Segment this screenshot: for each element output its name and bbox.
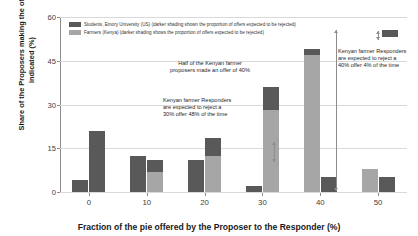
x-axis-tick-label: 20 — [200, 198, 209, 207]
legend-swatch-light-icon — [69, 30, 81, 35]
bar-students-20 — [188, 160, 204, 192]
x-axis-tick-mark — [378, 193, 379, 196]
x-axis-title: Fraction of the pie offered by the Propo… — [0, 222, 418, 232]
x-axis-tick-mark — [89, 193, 90, 196]
bar-farmers-40 — [304, 49, 320, 192]
y-axis-title: Share of the Proposers making the offer … — [17, 0, 37, 145]
bar-segment-accepted — [263, 110, 279, 192]
bar-group-0 — [72, 131, 105, 192]
bar-segment-accepted — [362, 169, 378, 192]
bar-segment-rejected — [205, 138, 221, 156]
y-axis-tick-mark — [57, 192, 60, 193]
bar-students-50 — [379, 177, 395, 192]
gridline — [60, 17, 407, 18]
x-axis-tick-mark — [262, 193, 263, 196]
legend-item-farmers: Farmers (Kenya) (darker shading shows th… — [69, 29, 296, 37]
bar-segment-rejected — [188, 160, 204, 192]
annotation-swatch-dark-icon — [382, 30, 398, 37]
annotation-half-offered-40: Half of the Kenyan farmer proposers made… — [150, 60, 270, 74]
bar-segment-accepted — [147, 172, 163, 192]
bar-segment-accepted — [205, 156, 221, 192]
y-axis-tick-label: 60 — [48, 13, 56, 22]
bar-students-10 — [130, 156, 146, 192]
bar-segment-rejected — [246, 186, 262, 192]
y-axis-tick-mark — [57, 17, 60, 18]
bar-segment-rejected — [147, 160, 163, 172]
gridline — [60, 192, 407, 193]
bar-group-10 — [130, 156, 163, 192]
bar-segment-rejected — [379, 177, 395, 192]
annotation-reject-40-offer: Kenyan farmer Responders are expected to… — [338, 48, 418, 70]
bar-segment-rejected — [130, 156, 146, 192]
annotation-arrow-40-span-head-down-icon — [334, 188, 338, 191]
y-axis-tick-label: 15 — [48, 144, 56, 153]
bar-segment-rejected — [89, 131, 105, 192]
bar-group-20 — [188, 138, 221, 192]
annotation-arrow-40-span — [336, 30, 337, 191]
y-axis-tick-label: 0 — [52, 188, 56, 197]
x-axis-tick-mark — [147, 193, 148, 196]
legend-label-students: Students, Emory University (US) (darker … — [84, 21, 296, 29]
bar-segment-accepted — [304, 55, 320, 192]
bar-farmers-20 — [205, 138, 221, 192]
annotation-arrow-40-head-up-icon — [376, 31, 380, 34]
y-axis-tick-label: 30 — [48, 100, 56, 109]
legend-swatch-dark-icon — [69, 22, 81, 27]
x-axis-tick-label: 0 — [87, 198, 91, 207]
bar-farmers-10 — [147, 160, 163, 192]
gridline — [60, 148, 407, 149]
annotation-arrow-40-head-down-icon — [376, 37, 380, 40]
bar-farmers-0 — [89, 131, 105, 192]
y-axis-tick-label: 45 — [48, 56, 56, 65]
legend-item-students: Students, Emory University (US) (darker … — [69, 21, 296, 29]
bar-chart: Share of the Proposers making the offer … — [0, 0, 418, 236]
annotation-arrow-40-span-head-up-icon — [334, 30, 338, 33]
legend-label-farmers: Farmers (Kenya) (darker shading shows th… — [84, 29, 264, 37]
x-axis-tick-label: 40 — [316, 198, 325, 207]
bar-students-0 — [72, 180, 88, 192]
annotation-reject-30-offer: Kenyan farmer Responders are expected to… — [163, 97, 267, 119]
x-axis-tick-mark — [205, 193, 206, 196]
x-axis-tick-mark — [320, 193, 321, 196]
bar-group-50 — [362, 169, 395, 192]
annotation-arrow-30-head-down-icon — [272, 159, 276, 162]
annotation-arrow-30-head-up-icon — [272, 142, 276, 145]
y-axis-tick-mark — [57, 61, 60, 62]
bar-group-40 — [304, 49, 337, 192]
bar-segment-rejected — [72, 180, 88, 192]
x-axis-tick-label: 10 — [142, 198, 151, 207]
chart-legend: Students, Emory University (US) (darker … — [69, 21, 296, 36]
bar-farmers-50 — [362, 169, 378, 192]
bar-students-30 — [246, 186, 262, 192]
y-axis-tick-mark — [57, 105, 60, 106]
x-axis-tick-label: 30 — [258, 198, 267, 207]
y-axis-tick-mark — [57, 148, 60, 149]
x-axis-tick-label: 50 — [374, 198, 383, 207]
